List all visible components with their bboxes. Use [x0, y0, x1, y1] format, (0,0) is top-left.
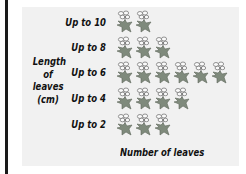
pictogram-row [115, 113, 172, 137]
leaf-icon [134, 87, 153, 111]
leaf-icon [153, 113, 172, 137]
leaf-icon [115, 113, 134, 137]
y-label-line: leaves [33, 81, 64, 94]
leaf-icon [134, 61, 153, 85]
leaf-icon [172, 61, 191, 85]
pictogram-row [115, 87, 191, 111]
leaf-icon [115, 87, 134, 111]
leaf-icon [153, 61, 172, 85]
leaf-icon [115, 10, 134, 34]
pictogram-row [115, 10, 153, 34]
leaf-icon [172, 87, 191, 111]
leaf-icon [134, 113, 153, 137]
leaf-icon [153, 36, 172, 60]
row-label: Up to 10 [57, 17, 106, 28]
leaf-icon [210, 61, 229, 85]
x-axis-label: Number of leaves [120, 147, 204, 158]
leaf-icon [115, 36, 134, 60]
leaf-icon [191, 61, 210, 85]
row-label: Up to 4 [57, 93, 106, 104]
leaf-icon [134, 36, 153, 60]
row-label: Up to 8 [57, 42, 106, 53]
leaf-icon [134, 10, 153, 34]
leaf-icon [115, 61, 134, 85]
pictogram-row [115, 36, 172, 60]
left-border-line [5, 0, 8, 174]
pictogram-row [115, 61, 229, 85]
leaf-icon [153, 87, 172, 111]
row-label: Up to 2 [57, 119, 106, 130]
row-label: Up to 6 [57, 67, 106, 78]
